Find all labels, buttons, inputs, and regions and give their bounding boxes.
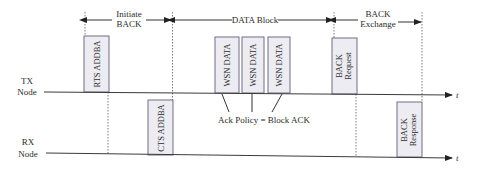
rx-node-label: Node [18, 149, 38, 159]
svg-text:WSN DATA: WSN DATA [222, 43, 232, 87]
svg-text:Response: Response [408, 113, 418, 146]
frame-rts-addba: RTS ADDBA [84, 36, 109, 92]
rx-node-label: RX [22, 137, 35, 147]
svg-text:CTS ADDBA: CTS ADDBA [156, 103, 166, 151]
phase-label: BACK [116, 19, 142, 29]
tx-node-label: Node [17, 87, 37, 97]
block-ack-timing-diagram: Initiate BACK DATA Block BACK Exchange T… [0, 0, 477, 171]
frame-wsn-data: WSN DATA [268, 37, 290, 93]
phase-label: Initiate [116, 9, 142, 19]
frame-wsn-data: WSN DATA [215, 37, 239, 93]
frame-wsn-data: WSN DATA [242, 37, 264, 93]
phase-label: Exchange [360, 19, 395, 29]
svg-text:WSN DATA: WSN DATA [248, 43, 258, 87]
svg-text:RTS ADDBA: RTS ADDBA [92, 40, 102, 88]
svg-text:Request: Request [343, 52, 353, 80]
time-label: t [456, 153, 459, 163]
phase-back-exchange: BACK Exchange [335, 9, 421, 29]
ack-policy-annotation: Ack Policy = Block ACK [218, 94, 311, 125]
time-label: t [456, 90, 459, 100]
phase-data-block: DATA Block [174, 15, 333, 25]
phase-initiate-back: Initiate BACK [86, 9, 171, 29]
phase-label: BACK [365, 9, 391, 19]
tx-node-label: TX [21, 76, 33, 86]
frame-cts-addba: CTS ADDBA [148, 100, 173, 155]
phase-label: DATA Block [232, 15, 279, 25]
rx-time-axis [46, 153, 452, 158]
svg-text:WSN DATA: WSN DATA [274, 43, 284, 87]
ack-policy-label: Ack Policy = Block ACK [218, 115, 311, 125]
frame-back-response: BACK Response [397, 102, 422, 157]
frame-back-request: BACK Request [332, 38, 357, 94]
